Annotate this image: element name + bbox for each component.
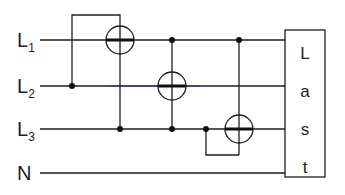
junction-dot <box>169 37 175 43</box>
label-l1: L1 <box>17 30 35 58</box>
load-letter-s: s <box>285 121 325 139</box>
junction-dot <box>203 126 209 132</box>
junction-dot <box>69 83 75 89</box>
load-letter-a: a <box>285 83 325 101</box>
label-l2: L2 <box>17 76 35 104</box>
label-n: N <box>17 163 31 183</box>
meter1-voltage-loop <box>72 15 120 129</box>
load-letter-l: L <box>285 45 325 63</box>
junction-dot <box>236 37 242 43</box>
load-letter-t: t <box>285 159 325 177</box>
junction-dot <box>169 126 175 132</box>
junction-dot <box>117 126 123 132</box>
label-l3: L3 <box>17 119 35 147</box>
